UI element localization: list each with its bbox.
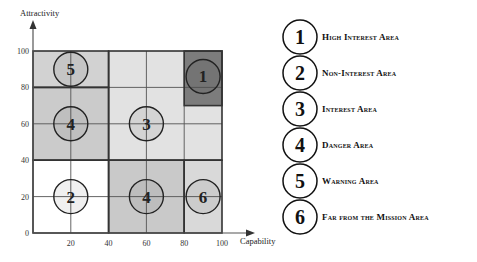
region-number: 5	[67, 60, 76, 79]
region-marker-danger-top: 4	[54, 107, 88, 141]
legend-item: 5Warning Area	[283, 164, 379, 198]
y-tick-label: 80	[21, 83, 29, 92]
y-tick-label: 100	[17, 47, 29, 56]
region-marker-far-from-mission: 6	[186, 180, 220, 214]
capability-attractivity-diagram: 5431246 Attractivity Capability 02040608…	[0, 0, 477, 262]
legend-item: 4Danger Area	[283, 128, 374, 162]
region-number: 4	[67, 115, 76, 134]
legend-label: Danger Area	[322, 140, 374, 150]
region-number: 2	[67, 188, 76, 207]
legend-item: 6Far from the Mission Area	[283, 200, 429, 234]
legend-number: 2	[295, 62, 305, 84]
legend-number: 3	[295, 98, 305, 120]
region-marker-danger-bottom: 4	[129, 180, 163, 214]
x-axis-title: Capability	[240, 236, 276, 246]
region-marker-warning: 5	[54, 52, 88, 86]
x-tick-label: 60	[142, 239, 150, 248]
legend-label: High Interest Area	[322, 32, 399, 42]
region-number: 6	[199, 188, 208, 207]
legend-item: 1High Interest Area	[283, 20, 399, 54]
region-marker-non-interest: 2	[54, 180, 88, 214]
legend-item: 3Interest Area	[283, 92, 378, 126]
legend-number: 6	[295, 206, 305, 228]
x-tick-label: 20	[67, 239, 75, 248]
legend-number: 4	[295, 134, 305, 156]
region-number: 1	[199, 67, 208, 86]
y-tick-label: 40	[21, 156, 29, 165]
y-axis-title: Attractivity	[20, 8, 60, 18]
legend-label: Interest Area	[322, 104, 378, 114]
legend-item: 2Non-Interest Area	[283, 56, 397, 90]
x-tick-label: 100	[216, 239, 228, 248]
region-marker-interest: 3	[129, 107, 163, 141]
region-marker-high-interest: 1	[186, 59, 220, 93]
region-number: 3	[142, 115, 151, 134]
legend: 1High Interest Area2Non-Interest Area3In…	[283, 20, 429, 234]
legend-label: Warning Area	[322, 176, 379, 186]
region-number: 4	[142, 188, 151, 207]
legend-label: Non-Interest Area	[322, 68, 397, 78]
legend-label: Far from the Mission Area	[322, 212, 429, 222]
x-tick-label: 80	[180, 239, 188, 248]
legend-number: 1	[295, 26, 305, 48]
y-tick-label: 0	[25, 229, 29, 238]
y-tick-label: 20	[21, 193, 29, 202]
y-axis-arrow-icon	[30, 20, 37, 29]
legend-number: 5	[295, 170, 305, 192]
x-tick-label: 40	[105, 239, 113, 248]
y-tick-label: 60	[21, 120, 29, 129]
